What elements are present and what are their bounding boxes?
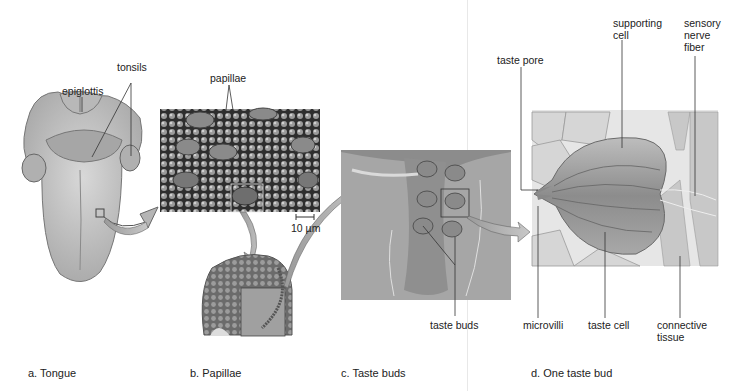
label-sensory-line2: nerve [684, 29, 721, 41]
label-papillae: papillae [210, 72, 246, 84]
tongue-illustration [22, 91, 158, 281]
label-connective-tissue: connective tissue [657, 319, 707, 343]
label-supporting-cell: supporting cell [613, 17, 662, 41]
label-sensory-line3: fiber [684, 41, 721, 53]
label-supporting-cell-line2: cell [613, 29, 662, 41]
caption-taste-buds: c. Taste buds [341, 367, 406, 379]
label-taste-pore: taste pore [497, 54, 544, 66]
papilla-cross-section [202, 255, 292, 337]
label-connective-line2: tissue [657, 331, 707, 343]
caption-papillae: b. Papillae [190, 367, 241, 379]
caption-tongue: a. Tongue [28, 367, 76, 379]
taste-bud-illustration [532, 110, 718, 266]
papillae-micrograph [160, 108, 320, 212]
diagram-artwork [0, 0, 734, 391]
label-microvilli: microvilli [523, 319, 563, 331]
label-sensory-line1: sensory [684, 17, 721, 29]
label-connective-line1: connective [657, 319, 707, 331]
label-tonsils: tonsils [117, 61, 147, 73]
label-supporting-cell-line1: supporting [613, 17, 662, 29]
label-epiglottis: epiglottis [62, 85, 103, 97]
caption-one-taste-bud: d. One taste bud [531, 367, 612, 379]
label-taste-buds: taste buds [430, 319, 478, 331]
scale-bar-label: 10 µm [291, 222, 320, 234]
label-taste-cell: taste cell [588, 319, 629, 331]
label-sensory-nerve-fiber: sensory nerve fiber [684, 17, 721, 53]
